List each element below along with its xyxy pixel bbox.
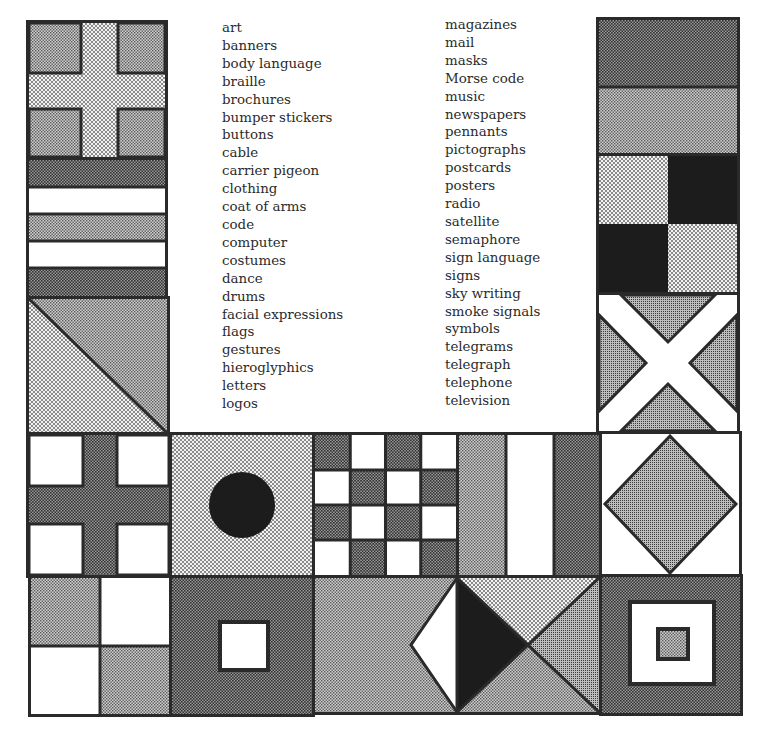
flag-quartered-light bbox=[28, 575, 172, 717]
flag-vertical-stripes bbox=[456, 432, 602, 578]
flag-triangles-wide bbox=[312, 575, 602, 715]
word-item: symbols bbox=[445, 320, 540, 338]
word-item: facial expressions bbox=[222, 306, 343, 324]
diamond-flag-icon bbox=[602, 434, 739, 575]
word-item: television bbox=[445, 392, 540, 410]
word-item: flags bbox=[222, 323, 343, 341]
word-item: body language bbox=[222, 55, 343, 73]
quartered-flag-icon bbox=[31, 578, 169, 714]
word-item: brochures bbox=[222, 91, 343, 109]
flag-two-bands bbox=[596, 17, 740, 156]
flag-nested-squares bbox=[599, 574, 743, 716]
word-item: telegraph bbox=[445, 356, 540, 374]
word-item: letters bbox=[222, 377, 343, 395]
word-item: telegrams bbox=[445, 338, 540, 356]
word-item: dance bbox=[222, 270, 343, 288]
cross-flag-icon bbox=[29, 23, 165, 157]
word-item: signs bbox=[445, 267, 540, 285]
word-item: Morse code bbox=[445, 70, 540, 88]
word-item: buttons bbox=[222, 126, 343, 144]
square-flag-icon bbox=[172, 578, 312, 714]
word-item: postcards bbox=[445, 159, 540, 177]
flag-cross-white-corners bbox=[26, 432, 172, 578]
bands-flag-icon bbox=[599, 20, 737, 153]
word-item: pictographs bbox=[445, 141, 540, 159]
word-item: art bbox=[222, 19, 343, 37]
word-item: banners bbox=[222, 37, 343, 55]
tricolor-flag-icon bbox=[459, 435, 599, 575]
word-item: sky writing bbox=[445, 285, 540, 303]
word-item: music bbox=[445, 88, 540, 106]
word-item: satellite bbox=[445, 213, 540, 231]
flag-diamond bbox=[599, 431, 742, 578]
flag-saltire bbox=[596, 292, 740, 434]
flag-disc bbox=[169, 432, 315, 578]
word-list-column-1: art banners body language braille brochu… bbox=[222, 19, 343, 413]
circle-flag-icon bbox=[172, 435, 312, 575]
word-item: bumper stickers bbox=[222, 109, 343, 127]
flag-square-center bbox=[169, 575, 315, 717]
diagonal-flag-icon bbox=[29, 299, 167, 433]
word-item: cable bbox=[222, 144, 343, 162]
triangles-flag-icon bbox=[315, 578, 599, 712]
word-item: coat of arms bbox=[222, 198, 343, 216]
checkerboard-flag-icon bbox=[315, 435, 456, 575]
word-item: costumes bbox=[222, 252, 343, 270]
word-item: magazines bbox=[445, 16, 540, 34]
x-cross-flag-icon bbox=[599, 295, 737, 431]
word-item: sign language bbox=[445, 249, 540, 267]
nested-squares-flag-icon bbox=[602, 577, 740, 713]
word-list-column-2: magazines mail masks Morse code music ne… bbox=[445, 16, 540, 410]
flag-diagonal-split bbox=[26, 296, 170, 436]
word-item: pennants bbox=[445, 123, 540, 141]
flag-quartered-dark bbox=[596, 153, 740, 295]
word-item: logos bbox=[222, 395, 343, 413]
word-item: carrier pigeon bbox=[222, 162, 343, 180]
word-item: computer bbox=[222, 234, 343, 252]
stripes-flag-icon bbox=[29, 160, 165, 296]
word-item: mail bbox=[445, 34, 540, 52]
flag-cross-light bbox=[26, 20, 168, 160]
word-item: posters bbox=[445, 177, 540, 195]
word-item: telephone bbox=[445, 374, 540, 392]
word-item: masks bbox=[445, 52, 540, 70]
flag-horizontal-stripes bbox=[26, 157, 168, 299]
flag-checkerboard bbox=[312, 432, 459, 578]
quartered-flag-icon bbox=[599, 156, 737, 292]
word-item: newspapers bbox=[445, 106, 540, 124]
word-item: smoke signals bbox=[445, 303, 540, 321]
word-item: code bbox=[222, 216, 343, 234]
word-item: semaphore bbox=[445, 231, 540, 249]
word-item: radio bbox=[445, 195, 540, 213]
word-item: hieroglyphics bbox=[222, 359, 343, 377]
word-item: braille bbox=[222, 73, 343, 91]
word-item: clothing bbox=[222, 180, 343, 198]
cross-flag-icon bbox=[29, 435, 169, 575]
word-item: drums bbox=[222, 288, 343, 306]
word-item: gestures bbox=[222, 341, 343, 359]
